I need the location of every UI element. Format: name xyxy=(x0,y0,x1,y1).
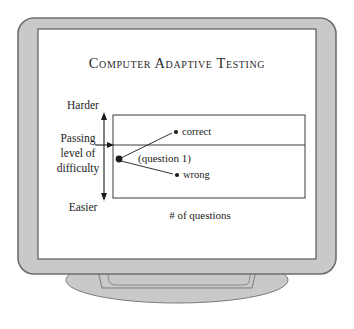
node-marker-question-1 xyxy=(116,156,123,163)
axis-label-x: # of questions xyxy=(169,210,231,221)
axis-label-harder: Harder xyxy=(67,100,99,112)
threshold-label-line-2: level of xyxy=(61,148,96,160)
node-marker-wrong xyxy=(175,173,179,177)
node-label-question-1: (question 1) xyxy=(138,153,191,164)
node-marker-correct xyxy=(174,130,178,134)
node-label-wrong: wrong xyxy=(183,170,210,181)
slide-title: Computer Adaptive Testing xyxy=(89,56,265,71)
threshold-label-line-3: difficulty xyxy=(57,163,100,175)
monitor-illustration: Computer Adaptive Testing Harder Passing… xyxy=(0,0,354,329)
threshold-label-line-1: Passing xyxy=(60,133,95,145)
node-label-correct: correct xyxy=(182,127,211,138)
axis-label-easier: Easier xyxy=(69,202,98,214)
monitor-graphics xyxy=(0,0,354,329)
